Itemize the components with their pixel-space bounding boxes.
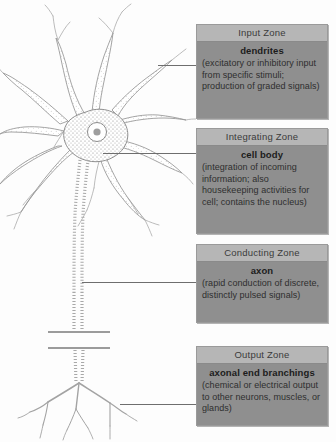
axon-break-marks — [48, 332, 110, 348]
leader-line-conducting — [82, 282, 196, 283]
leader-line-integrating — [103, 153, 196, 154]
neuron-illustration — [0, 0, 196, 442]
zone-body-output: axonal end branchings (chemical or elect… — [197, 364, 327, 419]
nucleus — [88, 123, 107, 142]
zone-description-output: (chemical or electrical output to other … — [202, 380, 322, 415]
zone-term-integrating: cell body — [202, 149, 322, 160]
zone-description-input: (excitatory or inhibitory input from spe… — [202, 58, 322, 93]
zone-header-conducting: Conducting Zone — [197, 245, 327, 262]
zone-header-integrating: Integrating Zone — [197, 129, 327, 146]
figure-canvas: Input Zone dendrites (excitatory or inhi… — [0, 0, 336, 442]
zone-body-input: dendrites (excitatory or inhibitory inpu… — [197, 42, 327, 97]
zone-term-output: axonal end branchings — [202, 367, 322, 378]
zone-body-integrating: cell body (integration of incoming infor… — [197, 146, 327, 212]
zone-box-conducting[interactable]: Conducting Zone axon (rapid conduction o… — [196, 244, 328, 323]
zone-description-integrating: (integration of incoming information; al… — [202, 162, 322, 208]
zone-box-integrating[interactable]: Integrating Zone cell body (integration … — [196, 128, 328, 234]
zone-term-input: dendrites — [202, 45, 322, 56]
zone-header-input: Input Zone — [197, 25, 327, 42]
leader-line-output — [120, 404, 196, 405]
zone-description-conducting: (rapid conduction of discrete, distinctl… — [202, 278, 322, 301]
axonal-end-branchings — [18, 383, 137, 440]
zone-header-output: Output Zone — [197, 347, 327, 364]
zone-box-input[interactable]: Input Zone dendrites (excitatory or inhi… — [196, 24, 328, 119]
leader-line-input — [158, 65, 196, 66]
zone-term-conducting: axon — [202, 265, 322, 276]
zone-box-output[interactable]: Output Zone axonal end branchings (chemi… — [196, 346, 328, 426]
axon — [74, 160, 88, 383]
zone-body-conducting: axon (rapid conduction of discrete, dist… — [197, 262, 327, 305]
